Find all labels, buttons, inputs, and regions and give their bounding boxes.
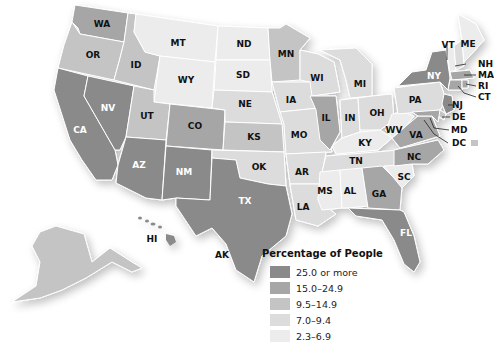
- svg-text:VA: VA: [409, 130, 422, 140]
- svg-text:VT: VT: [441, 40, 455, 50]
- svg-text:GA: GA: [372, 189, 386, 199]
- svg-text:LA: LA: [297, 202, 310, 212]
- legend-swatch: [270, 314, 290, 326]
- svg-text:AL: AL: [344, 186, 357, 196]
- legend-swatch: [270, 298, 290, 310]
- svg-text:MT: MT: [170, 38, 186, 48]
- svg-text:SD: SD: [236, 70, 250, 80]
- svg-text:CT: CT: [478, 92, 492, 102]
- legend-label: 9.5–14.9: [296, 299, 337, 310]
- svg-text:NC: NC: [407, 152, 422, 162]
- svg-text:NM: NM: [176, 167, 193, 177]
- legend-item: 7.0–9.4: [262, 312, 412, 328]
- svg-text:ID: ID: [131, 60, 142, 70]
- legend-swatch: [270, 282, 290, 294]
- svg-text:AZ: AZ: [132, 160, 146, 170]
- legend-label: 7.0–9.4: [296, 315, 331, 326]
- svg-text:MA: MA: [478, 70, 494, 80]
- legend-swatch: [270, 330, 290, 342]
- svg-text:NH: NH: [478, 59, 493, 69]
- svg-text:ND: ND: [236, 39, 251, 49]
- us-choropleth-map: WA OR CA NV ID MT WY UT AZ CO NM ND SD N…: [0, 0, 494, 349]
- legend-label: 2.3–6.9: [296, 331, 331, 342]
- svg-text:NV: NV: [101, 103, 116, 113]
- legend-item: 15.0–24.9: [262, 280, 412, 296]
- svg-text:OR: OR: [86, 50, 101, 60]
- svg-text:MN: MN: [278, 49, 295, 59]
- svg-text:MI: MI: [354, 79, 366, 89]
- state-ak[interactable]: [12, 226, 142, 302]
- legend-item: 25.0 or more: [262, 264, 412, 280]
- svg-text:NY: NY: [427, 71, 442, 81]
- svg-text:CA: CA: [73, 125, 87, 135]
- svg-text:MD: MD: [451, 125, 467, 135]
- legend-title: Percentage of People: [262, 248, 412, 259]
- legend-label: 25.0 or more: [296, 267, 358, 278]
- svg-text:IN: IN: [345, 113, 356, 123]
- svg-text:TX: TX: [238, 196, 251, 206]
- svg-text:FL: FL: [400, 228, 412, 238]
- svg-text:WA: WA: [94, 19, 111, 29]
- svg-text:OK: OK: [252, 162, 268, 172]
- svg-text:PA: PA: [409, 95, 422, 105]
- svg-text:KS: KS: [247, 132, 260, 142]
- svg-text:NJ: NJ: [452, 100, 463, 110]
- svg-text:HI: HI: [147, 234, 158, 244]
- svg-text:AK: AK: [215, 250, 230, 260]
- dc-swatch: [471, 140, 478, 146]
- svg-text:MO: MO: [291, 130, 308, 140]
- legend-label: 15.0–24.9: [296, 283, 343, 294]
- svg-text:NE: NE: [238, 99, 252, 109]
- legend-item: 2.3–6.9: [262, 328, 412, 344]
- svg-text:AR: AR: [295, 167, 309, 177]
- svg-text:WY: WY: [178, 75, 195, 85]
- state-ny[interactable]: [398, 50, 450, 90]
- svg-text:RI: RI: [478, 81, 488, 91]
- svg-text:UT: UT: [140, 111, 154, 121]
- svg-text:MS: MS: [317, 186, 332, 196]
- svg-text:WV: WV: [386, 125, 403, 135]
- svg-text:IA: IA: [286, 95, 296, 105]
- svg-text:DE: DE: [452, 112, 466, 122]
- svg-text:TN: TN: [349, 156, 363, 166]
- svg-text:DC: DC: [452, 138, 466, 148]
- svg-text:OH: OH: [369, 108, 384, 118]
- legend-item: 9.5–14.9: [262, 296, 412, 312]
- svg-text:IL: IL: [321, 113, 330, 123]
- svg-text:ME: ME: [460, 39, 475, 49]
- map-legend: Percentage of People 25.0 or more 15.0–2…: [262, 248, 412, 344]
- svg-text:KY: KY: [358, 138, 372, 148]
- svg-text:CO: CO: [188, 121, 203, 131]
- svg-text:SC: SC: [397, 172, 410, 182]
- svg-text:WI: WI: [310, 73, 323, 83]
- legend-swatch: [270, 266, 290, 278]
